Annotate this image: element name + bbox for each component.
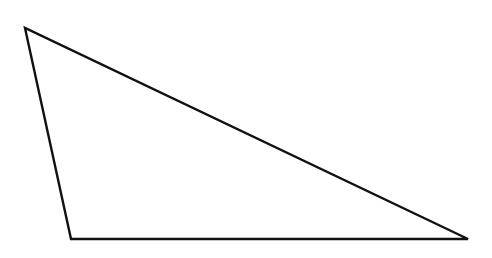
diagram-canvas: [0, 0, 492, 258]
triangle-diagram: [0, 0, 492, 258]
triangle-shape: [25, 28, 468, 239]
